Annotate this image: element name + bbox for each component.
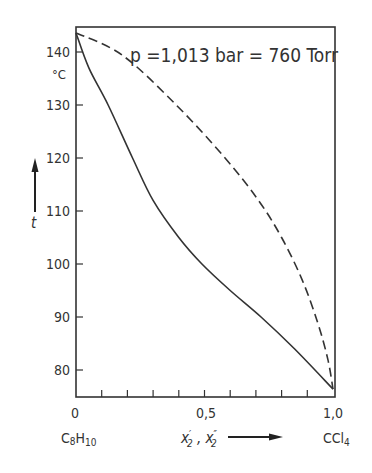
y-unit-label: °C: [52, 67, 66, 82]
y-tick-label: 90: [54, 309, 70, 325]
x-tick-label-0: 0: [71, 405, 79, 421]
y-tick-label: 140: [46, 44, 70, 60]
y-tick-label: 120: [46, 150, 70, 166]
y-tick-label: 110: [46, 203, 70, 219]
y-tick-label: 100: [46, 256, 70, 272]
x-axis-arrow-icon: [228, 434, 283, 441]
x-axis-label: x′2 , x″2: [180, 429, 218, 449]
y-axis-ticks: 8090100110120130140: [46, 44, 83, 378]
right-component-label: CCl4: [323, 430, 350, 448]
pressure-label: p =1,013 bar = 760 Torr: [130, 44, 339, 66]
svg-text:CCl4: CCl4: [323, 430, 350, 448]
x-axis-ticks: [102, 390, 308, 397]
x-tick-label-05: 0,5: [196, 405, 216, 421]
left-component-label: C8H10: [61, 430, 97, 448]
vapor-curve: [76, 33, 333, 389]
y-tick-label: 80: [54, 362, 70, 378]
x-tick-label-1: 1,0: [323, 405, 343, 421]
y-tick-label: 130: [46, 97, 70, 113]
chart: 8090100110120130140 p =1,013 bar = 760 T…: [0, 0, 372, 473]
y-axis-arrow-icon: [32, 158, 39, 212]
y-axis-label: t: [31, 214, 37, 232]
liquid-curve: [76, 33, 333, 389]
svg-text:x′2 , x″2: x′2 , x″2: [180, 429, 218, 449]
plot-frame: [76, 27, 335, 397]
svg-text:C8H10: C8H10: [61, 430, 97, 448]
